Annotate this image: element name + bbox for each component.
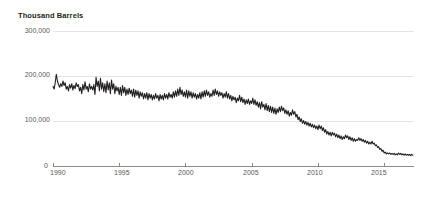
chart-plot-area (0, 0, 423, 199)
chart-container: Thousand Barrels 300,000 200,000 100,000… (0, 0, 423, 199)
x-axis-ticks-group (54, 163, 385, 167)
gridlines-group (53, 32, 414, 122)
data-series-line (53, 74, 413, 155)
